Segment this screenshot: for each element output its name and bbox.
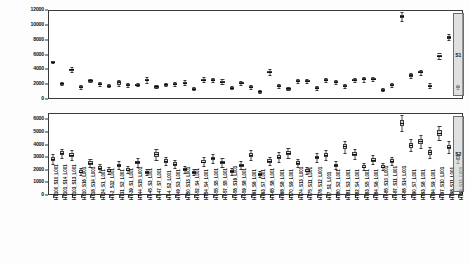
box-plot-glyph[interactable] — [98, 0, 102, 265]
y-tick-label: 4000 — [33, 142, 44, 147]
x-tick-label: HT-52_S4_L001 — [196, 168, 201, 200]
median-line — [164, 161, 168, 162]
box-plot-glyph[interactable] — [201, 0, 205, 265]
whisker-cap-lower — [278, 162, 281, 163]
box-plot-glyph[interactable] — [173, 0, 177, 265]
whisker-cap-lower — [315, 162, 318, 163]
x-tick-label: HT-88_S14_L001 — [403, 166, 408, 200]
box-plot-glyph[interactable] — [315, 0, 319, 265]
box-plot-glyph[interactable] — [305, 0, 309, 265]
whisker-cap-upper — [61, 149, 64, 150]
box-plot-glyph[interactable] — [220, 0, 224, 265]
whisker-cap-upper — [344, 141, 347, 142]
median-line — [51, 159, 55, 160]
y-tick-mark — [45, 169, 48, 170]
y-tick-label: 6000 — [33, 117, 44, 122]
whisker-cap-upper — [334, 161, 337, 162]
median-line — [296, 163, 300, 164]
box-plot-glyph[interactable] — [296, 0, 300, 265]
box-plot-glyph[interactable] — [107, 0, 111, 265]
x-tick-label: HT44_S15_L001 — [139, 167, 144, 200]
whisker-cap-upper — [315, 153, 318, 154]
whisker-cap-upper — [117, 161, 120, 162]
x-tick-label: HT97_S10_L001 — [441, 167, 446, 200]
x-tick-label: HT-39_S1_L001 — [130, 168, 135, 200]
box-plot-glyph[interactable] — [126, 0, 130, 265]
median-line — [409, 145, 413, 146]
box-plot-glyph[interactable] — [117, 0, 121, 265]
highlighted-column[interactable]: S2 — [453, 116, 464, 192]
whisker-cap-upper — [211, 154, 214, 155]
box-plot-glyph[interactable] — [230, 0, 234, 265]
whisker-cap-upper — [428, 147, 431, 148]
box-plot-glyph[interactable] — [211, 0, 215, 265]
box-plot-glyph[interactable] — [258, 0, 262, 265]
box-plot-glyph[interactable] — [286, 0, 290, 265]
box-plot-glyph[interactable] — [437, 0, 441, 265]
median-line — [371, 160, 375, 161]
box-plot-glyph[interactable] — [324, 0, 328, 265]
y-tick-mark — [45, 195, 48, 196]
whisker-cap-upper — [155, 149, 158, 150]
median-line — [428, 152, 432, 153]
box-plot-glyph[interactable] — [79, 0, 83, 265]
x-tick-label: HT82_S4_L001 — [356, 169, 361, 200]
box-plot-glyph[interactable] — [390, 0, 394, 265]
median-line — [60, 153, 64, 154]
box-plot-glyph[interactable] — [69, 0, 73, 265]
x-tick-label: HT24_S1_L001 — [102, 169, 107, 200]
box-plot-glyph[interactable] — [418, 0, 422, 265]
box-plot-glyph[interactable] — [135, 0, 139, 265]
box-plot-glyph[interactable] — [192, 0, 196, 265]
whisker-cap-upper — [70, 150, 73, 151]
median-line — [173, 164, 177, 165]
whisker-cap-upper — [51, 154, 54, 155]
box-plot-glyph[interactable] — [249, 0, 253, 265]
median-line — [334, 165, 338, 166]
median-line — [88, 163, 92, 164]
whisker-cap-lower — [164, 165, 167, 166]
whisker-cap-lower — [70, 160, 73, 161]
box-plot-glyph[interactable] — [51, 0, 55, 265]
box-plot-glyph[interactable] — [371, 0, 375, 265]
x-tick-label: HT54_S4_L001 — [205, 169, 210, 200]
box-plot-glyph[interactable] — [400, 0, 404, 265]
box-plot-glyph[interactable] — [277, 0, 281, 265]
y-tick-mark — [45, 157, 48, 158]
median-line — [418, 141, 422, 142]
whisker-cap-lower — [61, 158, 64, 159]
x-tick-label: HT61_S6_L001 — [253, 169, 258, 200]
box-plot-glyph[interactable] — [145, 0, 149, 265]
box-plot-glyph[interactable] — [88, 0, 92, 265]
box-plot-glyph[interactable] — [239, 0, 243, 265]
x-tick-label: HT-87_S11_L001 — [394, 166, 399, 200]
whisker-cap-upper — [438, 126, 441, 127]
x-tick-label: HT90_S7_L001 — [413, 169, 418, 200]
box-plot-glyph[interactable] — [381, 0, 385, 265]
box-plot-glyph[interactable] — [447, 0, 451, 265]
whisker-cap-upper — [287, 148, 290, 149]
whisker-cap-upper — [240, 161, 243, 162]
x-tick-label: HT81_S3_L001 — [347, 169, 352, 200]
box-plot-glyph[interactable] — [343, 0, 347, 265]
box-plot-glyph[interactable] — [352, 0, 356, 265]
y-tick-mark — [45, 182, 48, 183]
box-plot-glyph[interactable] — [183, 0, 187, 265]
box-plot-glyph[interactable] — [164, 0, 168, 265]
box-plot-glyph[interactable] — [428, 0, 432, 265]
x-tick-label: HT83_S5_L001 — [366, 169, 371, 200]
x-tick-label: HT103_S13_L001 — [73, 165, 78, 200]
box-plot-glyph[interactable] — [334, 0, 338, 265]
whisker-cap-upper — [381, 163, 384, 164]
y-tick-label: 3000 — [33, 155, 44, 160]
median-line — [447, 147, 451, 148]
box-plot-glyph[interactable] — [154, 0, 158, 265]
whisker-cap-lower — [438, 140, 441, 141]
box-plot-glyph[interactable] — [409, 0, 413, 265]
whisker-cap-upper — [202, 157, 205, 158]
whisker-cap-upper — [372, 155, 375, 156]
box-plot-glyph[interactable] — [60, 0, 64, 265]
box-plot-glyph[interactable] — [362, 0, 366, 265]
box-plot-glyph[interactable] — [267, 0, 271, 265]
whisker-cap-upper — [127, 166, 130, 167]
